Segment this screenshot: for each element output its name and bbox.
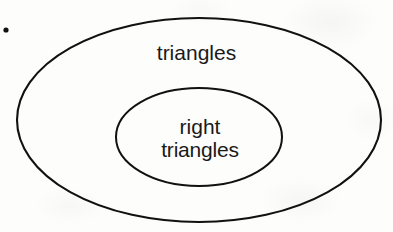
- inner-set-label-line1: right: [180, 115, 221, 138]
- inner-set-label-line2: triangles: [117, 139, 283, 162]
- bullet-dot-marker: [3, 27, 8, 32]
- outer-set-label: triangles: [0, 42, 393, 65]
- inner-set-label: right triangles: [117, 116, 283, 161]
- venn-diagram-figure: triangles right triangles: [0, 0, 393, 232]
